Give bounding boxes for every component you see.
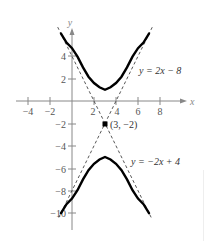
x-axis: −4 −2 2 4 6 8 x — [16, 96, 195, 117]
y-axis-arrow-icon — [70, 28, 75, 35]
y-tick-label: −8 — [55, 186, 66, 197]
x-tick-label: −2 — [45, 106, 56, 117]
y-tick-label: −2 — [55, 119, 66, 130]
asymptote-label-2: y = −2x + 4 — [130, 156, 180, 167]
page-edge-divider — [203, 170, 204, 241]
y-tick-label: −4 — [55, 141, 66, 152]
x-tick-label: 4 — [115, 106, 120, 117]
asymptote-label-1: y = 2x − 8 — [138, 65, 181, 76]
y-axis-label: y — [67, 17, 73, 28]
x-tick-label: 8 — [158, 106, 163, 117]
x-axis-arrow-icon — [180, 99, 187, 104]
x-tick-label: 2 — [91, 106, 96, 117]
y-tick-label: 4 — [61, 51, 66, 62]
y-tick-label: −6 — [55, 164, 66, 175]
hyperbola-chart: −4 −2 2 4 6 8 x 4 2 −2 −4 −6 −8 −10 y — [0, 0, 207, 241]
center-point-label: (3, −2) — [110, 119, 137, 131]
hyperbola-upper-branch — [61, 34, 149, 90]
x-tick-label: 6 — [136, 106, 141, 117]
x-tick-label: −4 — [23, 106, 34, 117]
x-axis-label: x — [189, 96, 195, 107]
center-point-marker — [103, 122, 108, 127]
y-tick-label: 2 — [61, 74, 66, 85]
